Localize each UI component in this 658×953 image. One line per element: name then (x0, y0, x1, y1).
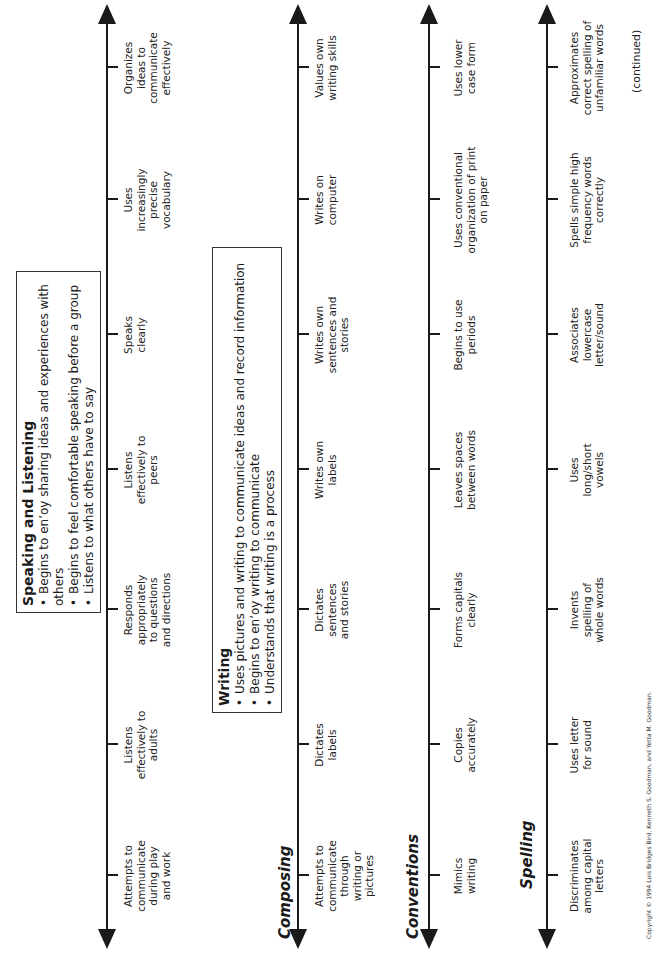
continued-note: (continued) (630, 30, 643, 93)
milestone-label: Listens effectively to adults (122, 702, 160, 788)
arrow-left-icon (289, 929, 307, 949)
spelling-title: Spelling (518, 820, 536, 889)
tick (299, 874, 309, 876)
box-bullet: Begins to enʼoy sharing ideas and experi… (37, 278, 67, 606)
arrow-right-icon (98, 4, 116, 24)
tick (108, 874, 118, 876)
copyright-notice: Copyright © 1994 Lois Bridges Bird, Kenn… (645, 691, 652, 939)
tick (430, 608, 440, 610)
tick (430, 468, 440, 470)
milestone-label: Discriminates among capital letters (568, 833, 606, 919)
milestone-label: Uses letter for sound (568, 710, 593, 780)
arrow-right-icon (289, 4, 307, 24)
milestone-label: Attempts to communicate through writing … (313, 836, 376, 916)
box-bullet: Begins to enʼoy writing to communicate (248, 254, 263, 706)
milestone-label: Forms capitals clearly (452, 567, 477, 653)
milestone-label: Listens effectively to peers (122, 435, 160, 505)
box-title: Writing (216, 254, 233, 706)
tick (108, 608, 118, 610)
tick (299, 198, 309, 200)
milestone-label: Uses increasingly precise vocabulary (122, 165, 172, 235)
spelling-axis (546, 8, 548, 945)
milestone-label: Writes on computer (313, 165, 338, 235)
tick (299, 608, 309, 610)
milestone-label: Associates lowercase letter/sound (568, 297, 606, 373)
tick (108, 66, 118, 68)
tick (430, 874, 440, 876)
tick (548, 874, 558, 876)
box-title: Speaking and Listening (20, 278, 37, 606)
tick (108, 198, 118, 200)
milestone-label: Attempts to communicate during play and … (122, 836, 172, 916)
arrow-right-icon (420, 4, 438, 24)
tick (430, 66, 440, 68)
conventions-axis (428, 8, 430, 945)
writing-box: Writing Uses pictures and writing to com… (212, 247, 282, 713)
rotated-page: Speaking and Listening Begins to enʼoy s… (0, 0, 658, 953)
conventions-title: Conventions (404, 834, 422, 939)
tick (548, 608, 558, 610)
tick (108, 468, 118, 470)
tick (548, 333, 558, 335)
milestone-label: Approximates correct spelling of unfamil… (568, 18, 606, 118)
milestone-label: Spells simple high frequency words corre… (568, 150, 606, 250)
composing-axis (297, 8, 299, 945)
milestone-label: Responds appropriately to questions and … (122, 572, 172, 648)
milestone-label: Writes own labels (313, 437, 338, 503)
tick (299, 743, 309, 745)
box-bullet: Listens to what others have to say (82, 278, 97, 606)
arrow-left-icon (538, 929, 556, 949)
tick (299, 333, 309, 335)
milestone-label: Uses long/short vowels (568, 437, 606, 503)
tick (430, 333, 440, 335)
milestone-label: Begins to use periods (452, 292, 477, 378)
tick (548, 743, 558, 745)
tick (430, 743, 440, 745)
arrow-left-icon (420, 929, 438, 949)
milestone-label: Writes own sentences and stories (313, 295, 351, 375)
arrow-left-icon (98, 929, 116, 949)
milestone-label: Uses lower case form (452, 36, 477, 100)
milestone-label: Values own writing skills (313, 28, 338, 108)
box-bullet: Understands that writing is a process (263, 254, 278, 706)
milestone-label: Mimics writing (452, 849, 477, 903)
milestone-label: Uses conventional organization of print … (452, 145, 490, 255)
milestone-label: Speaks clearly (122, 310, 147, 360)
speaking-listening-axis (106, 8, 108, 945)
milestone-label: Dictates labels (313, 715, 338, 775)
composing-title: Composing (276, 846, 294, 939)
milestone-label: Leaves spaces between words (452, 422, 477, 518)
tick (299, 66, 309, 68)
box-bullet: Begins to feel comfortable speaking befo… (67, 278, 82, 606)
tick (430, 198, 440, 200)
milestone-label: Dictates sentences and stories (313, 572, 351, 648)
milestone-label: Organizes ideas to communicate effective… (122, 28, 172, 108)
tick (548, 468, 558, 470)
tick (299, 468, 309, 470)
tick (548, 198, 558, 200)
tick (548, 66, 558, 68)
tick (108, 333, 118, 335)
milestone-label: Copies accurately (452, 710, 477, 780)
arrow-right-icon (538, 4, 556, 24)
tick (108, 743, 118, 745)
milestone-label: Invents spelling of whole words (568, 572, 606, 648)
box-bullet: Uses pictures and writing to communicate… (233, 254, 248, 706)
speaking-listening-box: Speaking and Listening Begins to enʼoy s… (16, 271, 101, 613)
